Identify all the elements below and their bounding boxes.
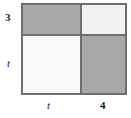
column-label-right: 4 — [100, 100, 106, 111]
area-model-diagram: 3 t t 4 — [0, 0, 131, 118]
grid-cell-bottom-left — [23, 36, 80, 93]
grid-cell-bottom-right — [82, 36, 125, 93]
area-model-grid — [21, 3, 127, 95]
grid-cell-top-right — [82, 5, 125, 34]
row-label-top: 3 — [5, 12, 11, 23]
column-label-left: t — [47, 100, 50, 111]
row-label-bottom: t — [7, 58, 10, 69]
grid-cell-top-left — [23, 5, 80, 34]
